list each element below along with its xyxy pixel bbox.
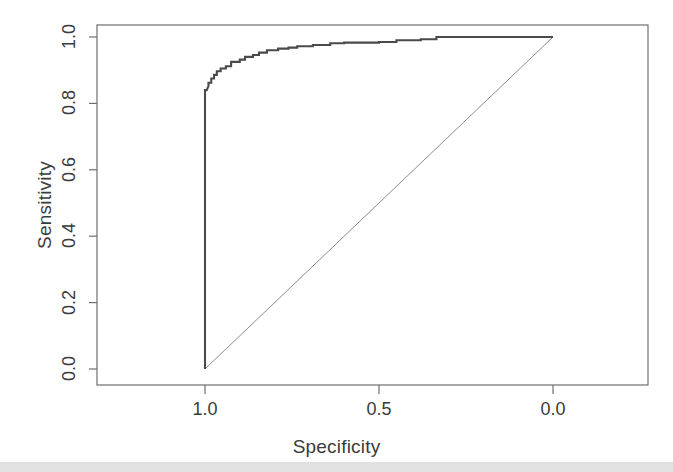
- x-axis-tick-label: 1.0: [192, 399, 217, 420]
- page-footer-band: [0, 462, 673, 472]
- roc-curve-figure: Sensitivity Specificity 0.00.20.40.60.81…: [0, 0, 673, 472]
- y-axis-tick-label: 0.6: [59, 151, 80, 187]
- x-axis-tick-label: 0.0: [540, 399, 565, 420]
- roc-plot-canvas: [0, 0, 673, 472]
- y-axis-tick-label: 0.0: [59, 351, 80, 387]
- y-axis-tick-label: 0.4: [59, 218, 80, 254]
- y-axis-title: Sensitivity: [34, 25, 56, 385]
- chance-reference-line: [205, 37, 553, 369]
- y-axis-tick-label: 0.2: [59, 284, 80, 320]
- y-axis-tick-label: 0.8: [59, 85, 80, 121]
- x-axis-title: Specificity: [0, 436, 673, 458]
- plot-box-frame: [97, 25, 648, 385]
- y-axis-tick-label: 1.0: [59, 19, 80, 55]
- x-axis-tick-label: 0.5: [366, 399, 391, 420]
